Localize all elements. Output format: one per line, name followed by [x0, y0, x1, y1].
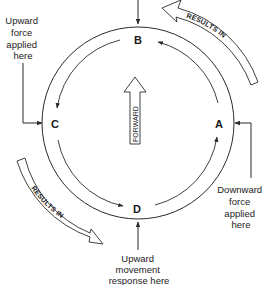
arc-arrow-d-to-a	[155, 137, 217, 205]
downward-force-pointer	[235, 123, 251, 178]
arc-arrow-b-to-c	[57, 40, 120, 108]
results-in-label-bottom: RESULTS IN	[30, 185, 65, 220]
results-in-band-top-right	[162, 0, 258, 85]
upward-movement-annotation: Upward movement response here	[109, 253, 170, 285]
point-label-a: A	[215, 118, 223, 130]
arc-arrow-a-to-b	[158, 42, 218, 103]
forward-label: FORWARD	[132, 106, 139, 142]
results-in-band-bottom-left	[17, 158, 103, 244]
upward-force-pointer	[23, 63, 42, 123]
arc-arrow-c-to-d	[58, 140, 123, 206]
upward-force-annotation: Upward force applied here	[5, 15, 40, 61]
point-label-b: B	[134, 34, 142, 46]
point-label-c: C	[51, 118, 59, 130]
downward-force-annotation: Downward force applied here	[217, 184, 265, 230]
point-label-d: D	[133, 203, 141, 215]
results-in-label-top: RESULTS IN	[186, 12, 228, 39]
precession-diagram: A B C D Upward force applied here Downwa…	[0, 0, 266, 285]
